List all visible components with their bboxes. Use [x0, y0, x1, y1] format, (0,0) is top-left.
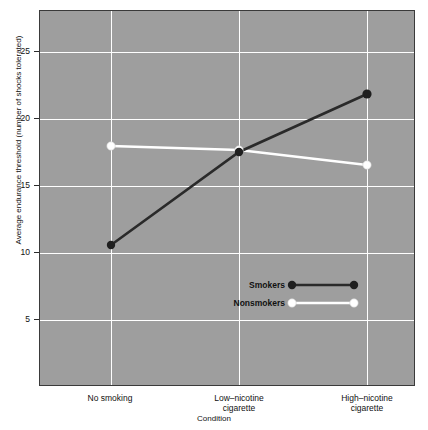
- x-tick-label-line-2: cigarette: [317, 403, 417, 413]
- legend-marker-nonsmokers-left: [288, 299, 296, 307]
- x-tick-label-low-nicotine: Low–nicotine cigarette: [189, 393, 289, 413]
- x-tick-label-line-1: High–nicotine: [317, 393, 417, 403]
- x-axis-title: Condition: [0, 414, 428, 423]
- data-point-smokers-3: [362, 89, 371, 98]
- legend-marker-smokers-right: [350, 281, 358, 289]
- x-tick-label-line-2: cigarette: [189, 403, 289, 413]
- series-overlay: [40, 11, 415, 386]
- x-tick-label-high-nicotine: High–nicotine cigarette: [317, 393, 417, 413]
- data-point-smokers-1: [107, 241, 115, 249]
- legend-label-smokers: Smokers: [190, 280, 285, 290]
- x-tick-label-line-1: Low–nicotine: [189, 393, 289, 403]
- y-tick-mark-10: [34, 252, 39, 253]
- x-tick-label-no-smoking: No smoking: [60, 393, 160, 403]
- y-axis-title: Average endurance threshold (number of s…: [14, 65, 23, 245]
- data-point-nonsmokers-1: [107, 142, 115, 150]
- plot-area: Smokers Nonsmokers: [39, 10, 415, 386]
- y-tick-label-5: 5: [10, 314, 30, 324]
- legend-label-nonsmokers: Nonsmokers: [190, 298, 285, 308]
- data-point-smokers-2: [235, 148, 243, 156]
- y-tick-mark-15: [34, 185, 39, 186]
- series-line-smokers: [111, 94, 367, 245]
- x-tick-label-line-1: No smoking: [60, 393, 160, 403]
- chart-figure: Smokers Nonsmokers 25 20 15 10 5 No smok…: [0, 0, 428, 430]
- y-tick-label-10: 10: [10, 247, 30, 257]
- data-point-nonsmokers-3: [363, 161, 371, 169]
- y-tick-mark-5: [34, 319, 39, 320]
- legend-marker-nonsmokers-right: [350, 299, 358, 307]
- legend-marker-smokers-left: [288, 281, 296, 289]
- y-tick-mark-20: [34, 118, 39, 119]
- y-tick-mark-25: [34, 51, 39, 52]
